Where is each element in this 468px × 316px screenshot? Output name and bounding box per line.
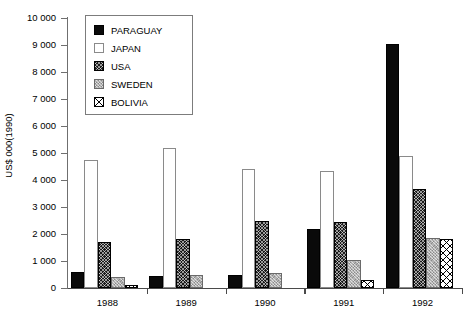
y-tick-5000 bbox=[61, 153, 68, 154]
x-tick-1991 bbox=[383, 288, 384, 294]
bar-bolivia-1988 bbox=[125, 285, 139, 288]
x-axis-label-1992: 1992 bbox=[412, 297, 433, 308]
x-tick-1989 bbox=[226, 288, 227, 294]
y-tick-label-4000: 4 000 bbox=[0, 174, 56, 185]
legend-label-japan: JAPAN bbox=[111, 43, 141, 54]
bar-japan-1992 bbox=[399, 156, 413, 288]
y-tick-3000 bbox=[61, 207, 68, 208]
x-axis-line bbox=[62, 288, 462, 289]
legend: PARAGUAYJAPANUSASWEDENBOLIVIA bbox=[85, 15, 193, 115]
y-tick-8000 bbox=[61, 72, 68, 73]
y-tick-label-3000: 3 000 bbox=[0, 201, 56, 212]
y-tick-label-6000: 6 000 bbox=[0, 120, 56, 131]
y-tick-label-7000: 7 000 bbox=[0, 93, 56, 104]
bar-bolivia-1992 bbox=[440, 239, 454, 288]
y-tick-label-0: 0 bbox=[0, 282, 56, 293]
bar-sweden-1990 bbox=[269, 273, 283, 288]
bar-chart: US$ 000(1990) 01 0002 0003 0004 0005 000… bbox=[0, 0, 468, 316]
y-tick-9000 bbox=[61, 45, 68, 46]
x-axis-label-1990: 1990 bbox=[254, 297, 275, 308]
y-tick-4000 bbox=[61, 180, 68, 181]
legend-label-usa: USA bbox=[111, 61, 131, 72]
legend-swatch-sweden-icon bbox=[94, 79, 104, 89]
y-tick-6000 bbox=[61, 126, 68, 127]
y-tick-10000 bbox=[61, 18, 68, 19]
x-tick-1988 bbox=[147, 288, 148, 294]
bar-japan-1989 bbox=[163, 148, 177, 288]
x-axis-label-1988: 1988 bbox=[97, 297, 118, 308]
y-tick-7000 bbox=[61, 99, 68, 100]
x-tick-1992 bbox=[462, 288, 463, 294]
y-tick-label-1000: 1 000 bbox=[0, 255, 56, 266]
bar-usa-1990 bbox=[255, 221, 269, 289]
bar-sweden-1992 bbox=[426, 238, 440, 288]
legend-label-sweden: SWEDEN bbox=[111, 79, 153, 90]
bar-sweden-1989 bbox=[190, 275, 204, 289]
bar-japan-1988 bbox=[84, 160, 98, 288]
bar-usa-1991 bbox=[334, 222, 348, 288]
bar-paraguay-1989 bbox=[149, 276, 163, 288]
bar-usa-1989 bbox=[176, 239, 190, 288]
y-tick-label-10000: 10 000 bbox=[0, 12, 56, 23]
bar-japan-1990 bbox=[242, 169, 256, 288]
bar-paraguay-1990 bbox=[228, 275, 242, 288]
y-tick-label-8000: 8 000 bbox=[0, 66, 56, 77]
legend-item-usa[interactable]: USA bbox=[94, 57, 192, 75]
bar-usa-1992 bbox=[413, 189, 427, 288]
legend-label-bolivia: BOLIVIA bbox=[111, 97, 148, 108]
bar-paraguay-1991 bbox=[307, 229, 321, 288]
legend-label-paraguay: PARAGUAY bbox=[111, 25, 162, 36]
y-tick-1000 bbox=[61, 261, 68, 262]
bar-japan-1991 bbox=[320, 171, 334, 288]
legend-swatch-paraguay-icon bbox=[94, 25, 104, 35]
bar-bolivia-1991 bbox=[361, 280, 375, 288]
bar-paraguay-1988 bbox=[71, 272, 85, 288]
bar-sweden-1988 bbox=[111, 277, 125, 288]
legend-item-japan[interactable]: JAPAN bbox=[94, 39, 192, 57]
legend-item-paraguay[interactable]: PARAGUAY bbox=[94, 21, 192, 39]
legend-swatch-bolivia-icon bbox=[94, 97, 104, 107]
x-tick-1990 bbox=[304, 288, 305, 294]
x-axis-label-1989: 1989 bbox=[176, 297, 197, 308]
legend-item-sweden[interactable]: SWEDEN bbox=[94, 75, 192, 93]
x-axis-label-1991: 1991 bbox=[333, 297, 354, 308]
legend-item-bolivia[interactable]: BOLIVIA bbox=[94, 93, 192, 111]
y-tick-label-9000: 9 000 bbox=[0, 39, 56, 50]
y-tick-2000 bbox=[61, 234, 68, 235]
y-tick-0 bbox=[61, 288, 68, 289]
y-tick-label-2000: 2 000 bbox=[0, 228, 56, 239]
bar-usa-1988 bbox=[98, 242, 112, 288]
bar-paraguay-1992 bbox=[386, 44, 400, 288]
legend-swatch-usa-icon bbox=[94, 61, 104, 71]
bar-sweden-1991 bbox=[347, 260, 361, 288]
legend-swatch-japan-icon bbox=[94, 43, 104, 53]
y-tick-label-5000: 5 000 bbox=[0, 147, 56, 158]
